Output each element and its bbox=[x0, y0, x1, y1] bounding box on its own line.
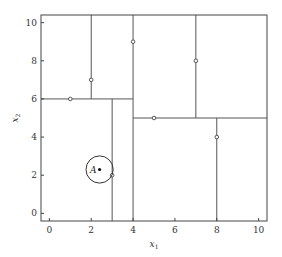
y-tick-label: 2 bbox=[31, 170, 37, 180]
x-tick-label: 0 bbox=[47, 225, 53, 235]
data-point bbox=[89, 78, 93, 82]
y-tick-label: 6 bbox=[31, 94, 37, 104]
query-point bbox=[98, 168, 101, 171]
y-axis-label: x2 bbox=[10, 113, 21, 122]
data-point bbox=[215, 135, 219, 139]
y-tick-label: 8 bbox=[31, 56, 37, 66]
x-tick-label: 4 bbox=[130, 225, 136, 235]
y-axis-label-sub: 2 bbox=[14, 113, 21, 117]
query-point-label: A bbox=[89, 165, 97, 175]
data-point bbox=[194, 59, 198, 63]
x-axis-label: x1 bbox=[150, 239, 159, 250]
y-tick-label: 0 bbox=[31, 208, 37, 218]
y-tick-label: 10 bbox=[26, 18, 38, 28]
kd-tree-chart: 02468100246810 A x1 x2 bbox=[0, 0, 282, 257]
data-point bbox=[152, 116, 156, 120]
query-point-group: A bbox=[86, 156, 113, 183]
x-tick-label: 2 bbox=[88, 225, 94, 235]
x-tick-label: 6 bbox=[172, 225, 178, 235]
x-tick-label: 8 bbox=[214, 225, 220, 235]
axis-ticks: 02468100246810 bbox=[26, 18, 265, 235]
x-tick-label: 10 bbox=[253, 225, 265, 235]
x-axis-label-sub: 1 bbox=[155, 243, 159, 250]
data-point bbox=[68, 97, 72, 101]
data-point bbox=[131, 40, 135, 44]
y-tick-label: 4 bbox=[31, 132, 37, 142]
